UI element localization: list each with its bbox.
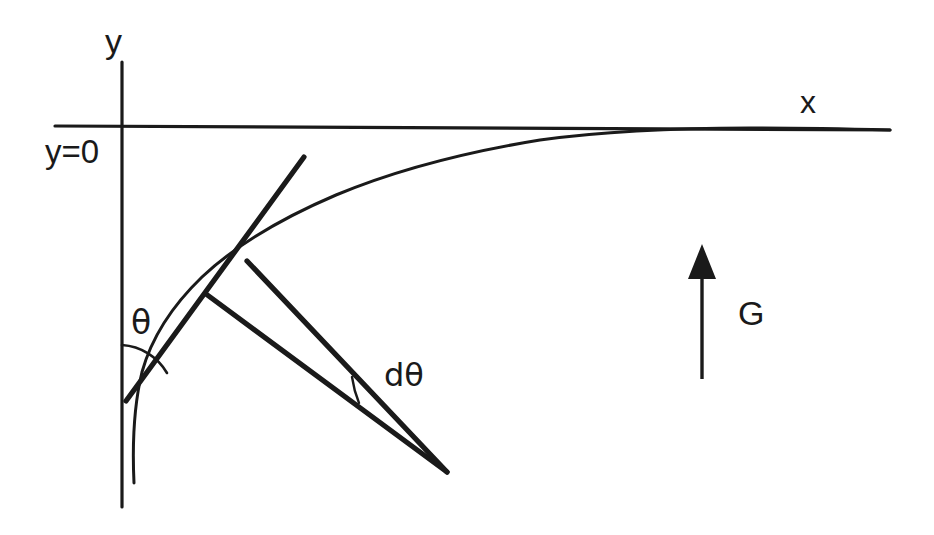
figure-canvas: y x y=0 θ dθ G [0, 0, 934, 535]
gravity-arrow-head [688, 244, 716, 279]
theta-angle-arc [122, 345, 167, 373]
tangent-line [126, 157, 304, 401]
gravity-label: G [738, 296, 764, 330]
y-axis-label: y [105, 24, 122, 58]
x-axis-label: x [800, 86, 816, 118]
gravity-arrow [688, 244, 716, 379]
diagram-svg [0, 0, 934, 535]
d-theta-label: dθ [384, 359, 424, 391]
theta-label: θ [131, 306, 151, 339]
interface-curve [133, 128, 890, 483]
y-zero-label: y=0 [45, 135, 99, 168]
